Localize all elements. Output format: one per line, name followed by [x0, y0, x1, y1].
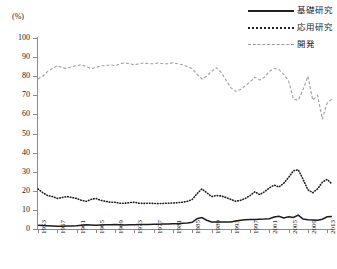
- series-line-kiso: [38, 215, 332, 226]
- series-line-kaihatsu: [38, 63, 332, 119]
- series-line-oyo: [38, 170, 332, 204]
